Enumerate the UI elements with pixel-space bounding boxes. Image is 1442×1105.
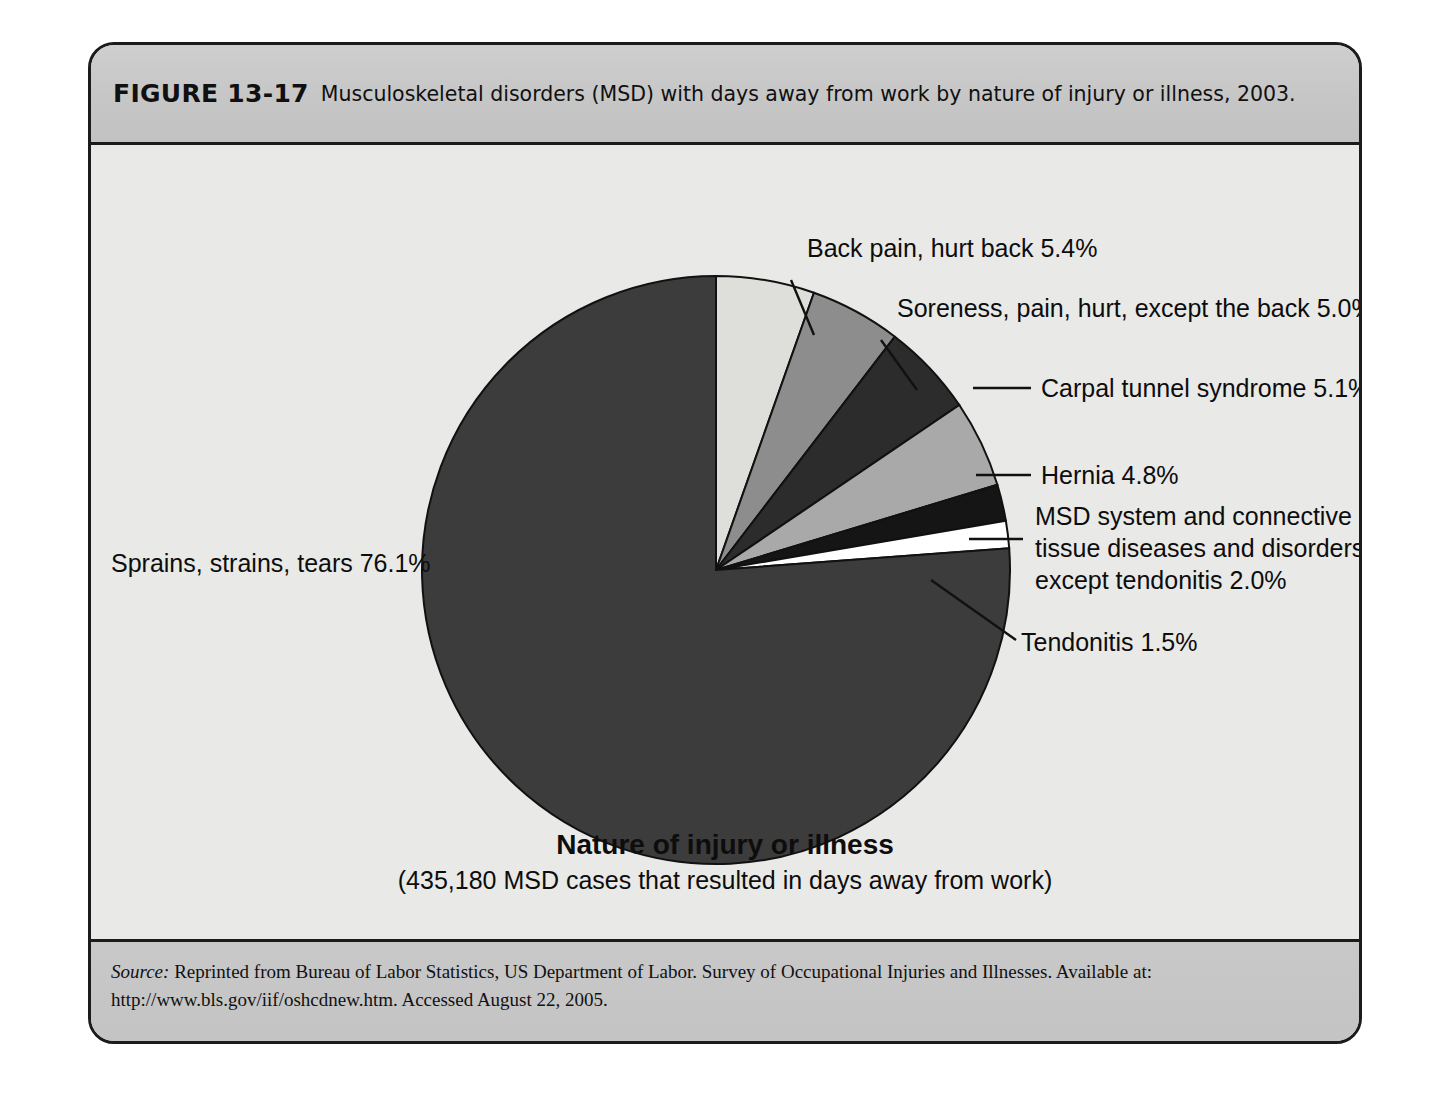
axis-subtitle: (435,180 MSD cases that resulted in days… <box>398 866 1052 894</box>
axis-title: Nature of injury or illness <box>556 829 894 860</box>
chart-body: Sprains, strains, tears 76.1% Back pain,… <box>91 145 1359 942</box>
source-label: Source: <box>111 961 169 982</box>
label-msd-system-line1: MSD system and connective <box>1035 502 1352 530</box>
label-hernia: Hernia 4.8% <box>1041 461 1179 489</box>
label-soreness: Soreness, pain, hurt, except the back 5.… <box>897 294 1359 322</box>
source-body: Reprinted from Bureau of Labor Statistic… <box>111 961 1152 1010</box>
figure-header: FIGURE 13-17 Musculoskeletal disorders (… <box>91 45 1359 145</box>
label-sprains: Sprains, strains, tears 76.1% <box>111 549 431 577</box>
pie-chart: Sprains, strains, tears 76.1% Back pain,… <box>91 145 1359 942</box>
figure-footer: Source: Reprinted from Bureau of Labor S… <box>91 939 1359 1041</box>
label-msd-system-line3: except tendonitis 2.0% <box>1035 566 1287 594</box>
figure-number: FIGURE 13-17 <box>113 79 309 108</box>
label-carpal: Carpal tunnel syndrome 5.1% <box>1041 374 1359 402</box>
source-note: Source: Reprinted from Bureau of Labor S… <box>111 958 1339 1013</box>
pie-slice-group <box>422 276 1010 864</box>
figure-caption: Musculoskeletal disorders (MSD) with day… <box>321 82 1296 106</box>
figure-frame: FIGURE 13-17 Musculoskeletal disorders (… <box>88 42 1362 1044</box>
label-msd-system-line2: tissue diseases and disorders, <box>1035 534 1359 562</box>
label-back-pain: Back pain, hurt back 5.4% <box>807 234 1097 262</box>
label-tendonitis: Tendonitis 1.5% <box>1021 628 1198 656</box>
